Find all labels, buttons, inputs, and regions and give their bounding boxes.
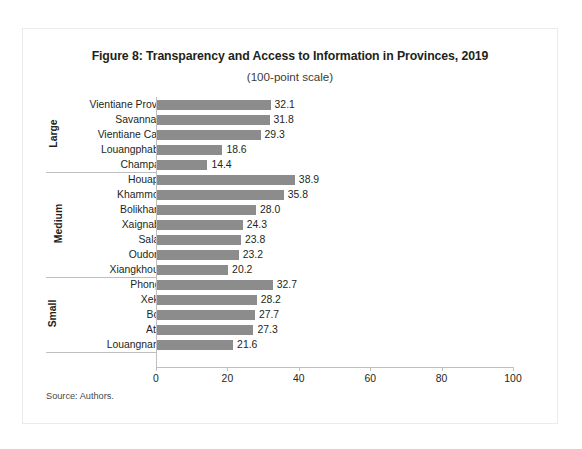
bar-row: Attapu27.3	[23, 322, 559, 337]
bar	[156, 265, 228, 275]
x-tick-label: 0	[136, 373, 176, 384]
bar	[156, 250, 239, 260]
bar-row: Louangnamtha21.6	[23, 337, 559, 352]
x-tick-mark	[156, 367, 157, 371]
bar-value-label: 14.4	[207, 157, 231, 172]
x-tick-label: 20	[207, 373, 247, 384]
bar	[156, 340, 233, 350]
bar-row: Phongsali32.7	[23, 277, 559, 292]
figure-container: Figure 8: Transparency and Access to Inf…	[22, 28, 558, 424]
bar-row: Vientiane Province32.1	[23, 97, 559, 112]
bar	[156, 295, 257, 305]
bar-value-label: 27.3	[253, 322, 277, 337]
group-label-text: Medium	[53, 203, 64, 242]
bar	[156, 325, 253, 335]
bar-value-label: 38.9	[295, 172, 319, 187]
bar-row: Champasak14.4	[23, 157, 559, 172]
bar-value-label: 21.6	[233, 337, 257, 352]
x-tick-mark	[370, 367, 371, 371]
bar-value-label: 20.2	[228, 262, 252, 277]
bar-row: Khammouan35.8	[23, 187, 559, 202]
bar-value-label: 23.2	[239, 247, 263, 262]
bar-value-label: 27.7	[255, 307, 279, 322]
bar-row: Xekong28.2	[23, 292, 559, 307]
bar	[156, 100, 271, 110]
bar	[156, 220, 243, 230]
bar	[156, 235, 241, 245]
bar-value-label: 23.8	[241, 232, 265, 247]
x-tick-label: 100	[493, 373, 533, 384]
group-label: Small	[39, 308, 54, 319]
bar-value-label: 29.3	[261, 127, 285, 142]
group-label: Medium	[39, 218, 54, 229]
group-separator	[46, 277, 157, 278]
y-axis-line	[156, 97, 157, 367]
x-tick-label: 40	[279, 373, 319, 384]
bar	[156, 130, 261, 140]
source-note: Source: Authors.	[46, 391, 114, 401]
group-label-text: Large	[48, 119, 59, 147]
bar-row: Bolikhamxai28.0	[23, 202, 559, 217]
x-axis-line	[156, 367, 513, 368]
bar	[156, 205, 256, 215]
bar-row: Savannakhet31.8	[23, 112, 559, 127]
bar	[156, 310, 255, 320]
bar-value-label: 32.1	[271, 97, 295, 112]
bar-value-label: 35.8	[284, 187, 308, 202]
bar-row: Xaignabouli24.3	[23, 217, 559, 232]
group-label-text: Small	[47, 299, 58, 327]
plot-area: Vientiane Province32.1Savannakhet31.8Vie…	[23, 29, 559, 425]
bar	[156, 190, 284, 200]
group-separator	[46, 172, 157, 173]
x-tick-label: 80	[422, 373, 462, 384]
x-tick-mark	[227, 367, 228, 371]
bar	[156, 175, 295, 185]
bar-row: Xiangkhouang20.2	[23, 262, 559, 277]
bar-row: Houaphan38.9	[23, 172, 559, 187]
x-tick-label: 60	[350, 373, 390, 384]
bar	[156, 145, 222, 155]
bar-value-label: 18.6	[222, 142, 246, 157]
bar-row: Vientiane Capital29.3	[23, 127, 559, 142]
group-separator-bottom	[46, 352, 157, 353]
x-tick-mark	[442, 367, 443, 371]
bar	[156, 115, 270, 125]
bar-value-label: 32.7	[273, 277, 297, 292]
bar-row: Oudomxai23.2	[23, 247, 559, 262]
bar-row: Bokeo27.7	[23, 307, 559, 322]
bar	[156, 280, 273, 290]
bar-value-label: 28.0	[256, 202, 280, 217]
bar-value-label: 31.8	[270, 112, 294, 127]
x-tick-mark	[513, 367, 514, 371]
bar	[156, 160, 207, 170]
bar-value-label: 24.3	[243, 217, 267, 232]
bar-row: Salavan23.8	[23, 232, 559, 247]
bar-value-label: 28.2	[257, 292, 281, 307]
bar-row: Louangphabang18.6	[23, 142, 559, 157]
group-label: Large	[39, 128, 54, 139]
x-tick-mark	[299, 367, 300, 371]
